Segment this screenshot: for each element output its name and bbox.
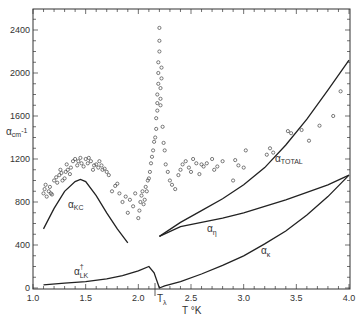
x-tick-label: 3.0 bbox=[237, 293, 250, 303]
data-point bbox=[45, 195, 48, 198]
data-point bbox=[152, 149, 155, 152]
data-point bbox=[65, 163, 68, 166]
data-point bbox=[118, 192, 121, 195]
data-point bbox=[221, 160, 224, 163]
y-tick-labels: 04008001200160020002400 bbox=[10, 25, 30, 293]
data-point bbox=[205, 162, 208, 165]
data-point bbox=[158, 26, 161, 29]
data-point bbox=[132, 205, 135, 208]
data-point bbox=[332, 114, 335, 117]
data-point bbox=[170, 183, 173, 186]
data-point bbox=[168, 179, 171, 182]
data-point bbox=[126, 211, 129, 214]
data-point bbox=[232, 179, 235, 182]
data-point bbox=[116, 182, 119, 185]
y-tick-label: 400 bbox=[15, 240, 30, 250]
data-point bbox=[195, 162, 198, 165]
data-point bbox=[55, 176, 58, 179]
data-point bbox=[149, 162, 152, 165]
data-point bbox=[156, 102, 159, 105]
data-point bbox=[181, 163, 184, 166]
data-point bbox=[300, 128, 303, 131]
data-point bbox=[156, 93, 159, 96]
y-tick-label: 2000 bbox=[10, 68, 30, 78]
data-point bbox=[86, 162, 89, 165]
x-tick-labels: 1.01.52.02.53.03.54.0 bbox=[27, 293, 356, 303]
data-point bbox=[154, 136, 157, 139]
data-point bbox=[179, 168, 182, 171]
data-point bbox=[139, 200, 142, 203]
y-axis-label: αcm-1 bbox=[6, 126, 27, 138]
data-point bbox=[174, 188, 177, 191]
data-point bbox=[68, 173, 71, 176]
data-point bbox=[98, 160, 101, 163]
x-tick-label: 2.0 bbox=[132, 293, 145, 303]
data-point bbox=[110, 190, 113, 193]
data-point bbox=[189, 170, 192, 173]
data-point bbox=[237, 164, 240, 167]
data-point bbox=[234, 159, 237, 162]
data-point bbox=[187, 166, 190, 169]
data-point bbox=[82, 165, 85, 168]
t-lambda-label: Tλ bbox=[157, 293, 167, 306]
data-point bbox=[74, 157, 77, 160]
data-point bbox=[153, 140, 156, 143]
x-tick-label: 3.5 bbox=[290, 293, 303, 303]
alpha-eta-label: αη bbox=[207, 223, 217, 237]
data-point bbox=[69, 166, 72, 169]
data-point bbox=[268, 147, 271, 150]
data-point bbox=[242, 166, 245, 169]
data-point bbox=[157, 71, 160, 74]
x-tick-label: 2.5 bbox=[185, 293, 198, 303]
data-point bbox=[157, 82, 160, 85]
y-tick-label: 800 bbox=[15, 197, 30, 207]
data-point bbox=[138, 209, 141, 212]
data-point bbox=[159, 97, 162, 100]
y-tick-label: 1600 bbox=[10, 111, 30, 121]
data-point bbox=[143, 198, 146, 201]
data-point bbox=[339, 90, 342, 93]
data-point bbox=[145, 190, 148, 193]
data-point bbox=[216, 165, 219, 168]
data-point bbox=[157, 61, 160, 64]
data-point bbox=[128, 198, 131, 201]
chart: 04008001200160020002400 1.01.52.02.53.03… bbox=[0, 0, 363, 321]
x-tick-label: 4.0 bbox=[343, 293, 356, 303]
data-point bbox=[100, 164, 103, 167]
data-point bbox=[66, 168, 69, 171]
data-point bbox=[160, 66, 163, 69]
alpha-lk-label: α†LK bbox=[74, 263, 89, 279]
data-point bbox=[59, 168, 62, 171]
data-point bbox=[159, 104, 162, 107]
data-point bbox=[148, 170, 151, 173]
data-point bbox=[244, 149, 247, 152]
data-point bbox=[76, 164, 79, 167]
data-point bbox=[156, 109, 159, 112]
data-point bbox=[150, 155, 153, 158]
y-tick-label: 2400 bbox=[10, 25, 30, 35]
data-point bbox=[105, 170, 108, 173]
data-point bbox=[192, 157, 195, 160]
data-point bbox=[43, 188, 46, 191]
data-point bbox=[144, 185, 147, 188]
data-point bbox=[124, 195, 127, 198]
data-point bbox=[53, 179, 56, 182]
data-point bbox=[307, 139, 310, 142]
data-point bbox=[318, 124, 321, 127]
x-tick-label: 1.5 bbox=[79, 293, 92, 303]
data-point bbox=[134, 192, 137, 195]
curve-- bbox=[159, 175, 349, 236]
data-point bbox=[80, 162, 83, 165]
data-point bbox=[137, 217, 140, 220]
data-point bbox=[177, 174, 180, 177]
data-point bbox=[48, 185, 51, 188]
alpha-kc-label: αKC bbox=[68, 199, 84, 211]
data-point bbox=[42, 192, 45, 195]
curve--lk- bbox=[44, 267, 160, 289]
data-point bbox=[155, 117, 158, 120]
data-point bbox=[286, 130, 289, 133]
data-point bbox=[63, 177, 66, 180]
data-point bbox=[184, 160, 187, 163]
plot-frame bbox=[33, 9, 350, 289]
data-point bbox=[79, 156, 82, 159]
